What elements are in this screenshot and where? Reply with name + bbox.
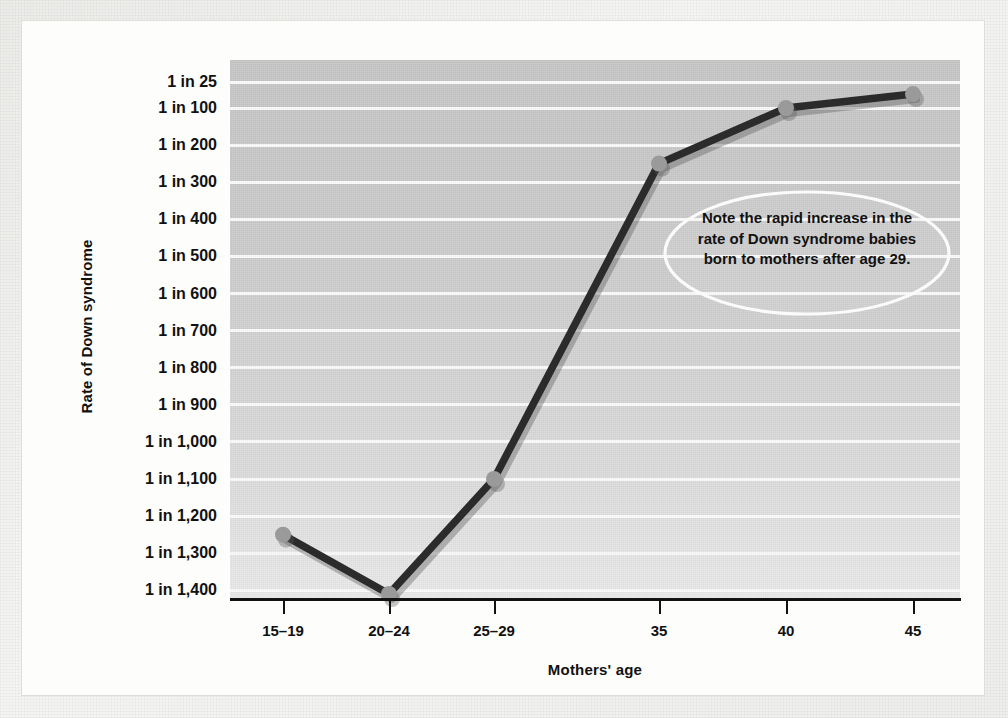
x-axis-tick-mark (494, 601, 496, 614)
x-axis-line (230, 598, 961, 601)
y-axis-tick-label: 1 in 1,400 (27, 581, 217, 599)
x-axis-tick-label: 45 (853, 622, 973, 639)
x-axis-tick-mark (913, 601, 915, 614)
figure-card: Rate of Down syndrome 1 in 251 in 1001 i… (21, 20, 985, 696)
y-axis-tick-label: 1 in 1,000 (27, 433, 217, 451)
annotation-text: Note the rapid increase in the rate of D… (695, 208, 919, 270)
series-line-path (283, 94, 913, 594)
y-axis-tick-label: 1 in 900 (27, 396, 217, 414)
annotation-callout: Note the rapid increase in the rate of D… (661, 188, 953, 318)
data-series: 15–19: 1 in 1,25020–24: 1 in 1,41025–29:… (230, 60, 960, 598)
data-point-marker: 15–19: 1 in 1,250 (275, 527, 291, 543)
y-axis-tick-label: 1 in 1,300 (27, 544, 217, 562)
data-point-marker: 25–29: 1 in 1,100 (486, 471, 502, 487)
series-shadow (286, 99, 916, 599)
data-point-marker: 35: 1 in 250 (651, 156, 667, 172)
y-axis-tick-label: 1 in 1,100 (27, 470, 217, 488)
x-axis-tick-mark (389, 601, 391, 614)
figure-root: Rate of Down syndrome 1 in 251 in 1001 i… (0, 0, 1008, 718)
series-line-shadow (286, 99, 916, 599)
y-axis-tick-label: 1 in 400 (27, 210, 217, 228)
x-axis-tick-label: 40 (726, 622, 846, 639)
x-axis-title: Mothers' age (230, 661, 960, 678)
x-axis-tick-label: 25–29 (434, 622, 554, 639)
y-axis-tick-label: 1 in 1,200 (27, 507, 217, 525)
series-line (283, 94, 913, 594)
series-markers: 15–19: 1 in 1,25020–24: 1 in 1,41025–29:… (275, 86, 924, 607)
x-axis-tick-label: 20–24 (329, 622, 449, 639)
x-axis-tick-mark (659, 601, 661, 614)
y-axis-tick-label: 1 in 700 (27, 322, 217, 340)
x-axis-tick-mark (283, 601, 285, 614)
y-axis-tick-labels: 1 in 251 in 1001 in 2001 in 3001 in 4001… (21, 20, 217, 696)
y-axis-tick-label: 1 in 500 (27, 247, 217, 265)
y-axis-tick-label: 1 in 100 (27, 99, 217, 117)
y-axis-tick-label: 1 in 800 (27, 359, 217, 377)
x-axis-tick-label: 35 (599, 622, 719, 639)
data-point-marker: 45: 1 in 60 (905, 86, 921, 102)
y-axis-tick-label: 1 in 300 (27, 173, 217, 191)
y-axis-tick-label: 1 in 25 (27, 73, 217, 91)
x-axis-tick-mark (786, 601, 788, 614)
data-point-marker: 40: 1 in 100 (778, 100, 794, 116)
x-axis-tick-label: 15–19 (223, 622, 343, 639)
y-axis-tick-label: 1 in 600 (27, 285, 217, 303)
y-axis-tick-label: 1 in 200 (27, 136, 217, 154)
